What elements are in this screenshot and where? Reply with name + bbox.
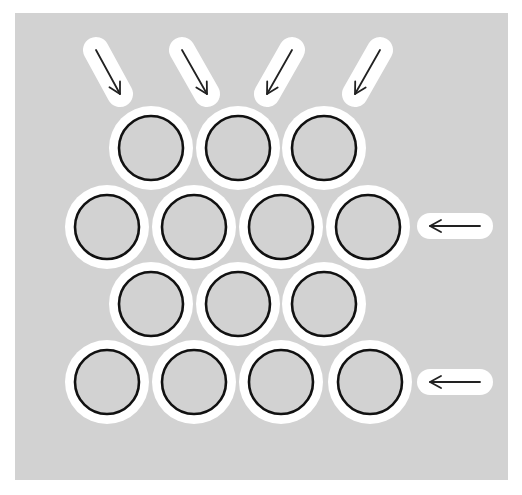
circle-r2-c4	[336, 195, 400, 259]
circle-r2-c2	[162, 195, 226, 259]
circle-r4-c1	[75, 350, 139, 414]
circle-r4-c2	[162, 350, 226, 414]
packing-diagram	[0, 0, 522, 495]
circle-r1-c3	[292, 116, 356, 180]
circle-r2-c3	[249, 195, 313, 259]
circle-r4-c4	[338, 350, 402, 414]
circle-r1-c1	[119, 116, 183, 180]
circle-r4-c3	[249, 350, 313, 414]
circle-r3-c2	[206, 272, 270, 336]
circle-r2-c1	[75, 195, 139, 259]
circle-r1-c2	[206, 116, 270, 180]
circle-r3-c1	[119, 272, 183, 336]
circle-r3-c3	[292, 272, 356, 336]
